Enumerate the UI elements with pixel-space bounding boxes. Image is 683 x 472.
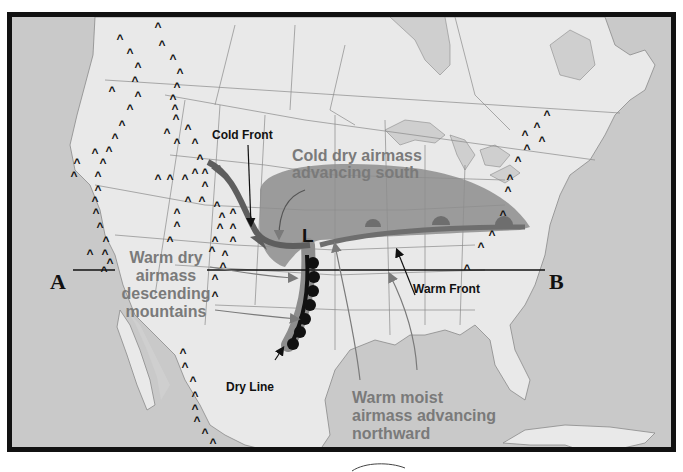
svg-text:^: ^ xyxy=(191,136,198,150)
svg-text:^: ^ xyxy=(229,234,236,248)
svg-text:^: ^ xyxy=(179,346,186,360)
svg-text:^: ^ xyxy=(181,360,188,374)
svg-text:^: ^ xyxy=(191,389,198,403)
weather-map-canvas: ^^^^^^^^^^^^^^^^^^^^^^^^ ^^^^^^^^^^^^^^^… xyxy=(12,17,671,447)
svg-text:^: ^ xyxy=(73,156,80,170)
warm-dry-label-line2: airmass xyxy=(116,268,216,285)
svg-text:^: ^ xyxy=(134,89,141,103)
svg-text:^: ^ xyxy=(533,120,540,134)
svg-text:^: ^ xyxy=(229,221,236,235)
svg-text:^: ^ xyxy=(134,60,141,74)
svg-text:^: ^ xyxy=(201,426,208,440)
svg-text:^: ^ xyxy=(181,172,188,186)
svg-text:^: ^ xyxy=(173,219,180,233)
warm-moist-label-line3: northward xyxy=(352,426,430,443)
svg-text:^: ^ xyxy=(105,144,112,158)
svg-text:^: ^ xyxy=(166,172,173,186)
svg-text:^: ^ xyxy=(463,262,470,276)
warm-dry-label-line1: Warm dry xyxy=(116,250,216,267)
svg-text:^: ^ xyxy=(99,156,106,170)
svg-text:^: ^ xyxy=(504,184,511,198)
svg-text:^: ^ xyxy=(499,208,506,222)
svg-text:^: ^ xyxy=(154,20,161,34)
svg-text:^: ^ xyxy=(94,169,101,183)
warm-moist-label-line1: Warm moist xyxy=(352,390,443,407)
svg-text:^: ^ xyxy=(100,264,107,278)
svg-text:^: ^ xyxy=(106,256,113,270)
svg-text:^: ^ xyxy=(173,136,180,150)
svg-text:^: ^ xyxy=(189,374,196,388)
svg-text:^: ^ xyxy=(173,206,180,220)
svg-text:^: ^ xyxy=(201,179,208,193)
svg-text:^: ^ xyxy=(216,221,223,235)
dry-line-label: Dry Line xyxy=(226,381,274,394)
cross-section-label-a: A xyxy=(50,270,66,293)
svg-text:^: ^ xyxy=(172,112,179,126)
svg-text:^: ^ xyxy=(201,166,208,180)
svg-text:^: ^ xyxy=(488,228,495,242)
warm-front-label: Warm Front xyxy=(413,283,480,296)
svg-text:^: ^ xyxy=(169,52,176,66)
svg-text:^: ^ xyxy=(70,169,77,183)
svg-text:^: ^ xyxy=(196,152,203,166)
svg-text:^: ^ xyxy=(158,38,165,52)
svg-text:^: ^ xyxy=(126,46,133,60)
decorative-curve xyxy=(350,460,410,472)
svg-text:^: ^ xyxy=(219,260,226,274)
svg-text:^: ^ xyxy=(191,166,198,180)
svg-text:^: ^ xyxy=(118,118,125,132)
svg-text:^: ^ xyxy=(96,220,103,234)
svg-text:^: ^ xyxy=(163,126,170,140)
svg-text:^: ^ xyxy=(102,234,109,248)
svg-text:^: ^ xyxy=(477,240,484,254)
svg-text:^: ^ xyxy=(91,146,98,160)
warm-dry-label-line3: descending xyxy=(116,286,216,303)
svg-text:^: ^ xyxy=(108,84,115,98)
cross-section-label-b: B xyxy=(549,270,564,293)
svg-text:^: ^ xyxy=(184,122,191,136)
cold-front-label: Cold Front xyxy=(212,129,273,142)
svg-text:^: ^ xyxy=(176,66,183,80)
svg-text:^: ^ xyxy=(514,154,521,168)
svg-text:^: ^ xyxy=(198,194,205,208)
svg-text:^: ^ xyxy=(193,414,200,428)
svg-text:^: ^ xyxy=(126,102,133,116)
svg-text:^: ^ xyxy=(209,436,216,447)
svg-text:^: ^ xyxy=(229,206,236,220)
warm-moist-label-line2: airmass advancing xyxy=(352,408,496,425)
cold-airmass-label-line2: advancing south xyxy=(292,165,419,182)
svg-text:^: ^ xyxy=(86,247,93,261)
svg-text:^: ^ xyxy=(92,206,99,220)
svg-text:^: ^ xyxy=(116,32,123,46)
svg-text:^: ^ xyxy=(111,131,118,145)
map-frame: ^^^^^^^^^^^^^^^^^^^^^^^^ ^^^^^^^^^^^^^^^… xyxy=(7,12,676,452)
svg-text:^: ^ xyxy=(538,134,545,148)
svg-text:^: ^ xyxy=(521,128,528,142)
cold-airmass-label-line1: Cold dry airmass xyxy=(292,148,422,165)
svg-text:^: ^ xyxy=(523,142,530,156)
svg-text:^: ^ xyxy=(543,108,550,122)
svg-text:^: ^ xyxy=(166,234,173,248)
svg-text:^: ^ xyxy=(154,172,161,186)
cuba-island xyxy=(503,425,655,447)
svg-text:^: ^ xyxy=(184,194,191,208)
warm-dry-label-line4: mountains xyxy=(116,304,216,321)
low-pressure-label: L xyxy=(302,226,314,246)
svg-text:^: ^ xyxy=(131,74,138,88)
